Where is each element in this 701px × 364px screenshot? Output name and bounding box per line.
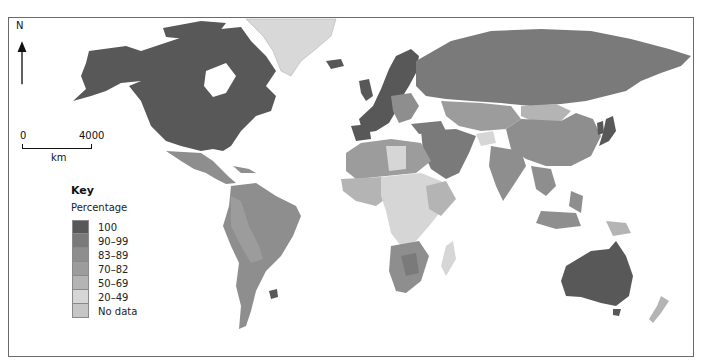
key-item: 50–69 [72, 276, 137, 290]
swatch-70-82 [72, 262, 89, 276]
scale-end-label: 4000 [79, 130, 104, 141]
region-russia [416, 29, 691, 106]
region-australia [561, 241, 633, 306]
scale-bar [22, 144, 92, 149]
swatch-83-89 [72, 248, 89, 262]
map-frame: N 0 4000 km Key Percentage 100 90–99 83–… [8, 17, 694, 357]
region-uruguay [269, 289, 278, 299]
key-item: 100 [72, 220, 137, 234]
region-india [489, 146, 526, 201]
scale-start-label: 0 [20, 130, 26, 141]
region-southeast-asia [531, 166, 556, 196]
key-title: Key [71, 184, 94, 197]
region-afghanistan [476, 131, 496, 146]
north-label: N [16, 20, 23, 31]
region-new-zealand [649, 296, 669, 323]
key-list: 100 90–99 83–89 70–82 50–69 20–49 No dat… [72, 220, 137, 318]
key-item: No data [72, 304, 137, 318]
region-north-america [129, 27, 276, 151]
north-arrow-icon [12, 36, 32, 86]
scale-unit-label: km [51, 152, 67, 163]
region-alaska [73, 46, 141, 101]
region-mexico [166, 151, 236, 184]
key-item: 90–99 [72, 234, 137, 248]
swatch-100 [72, 220, 89, 234]
swatch-20-49 [72, 290, 89, 304]
region-central-asia [441, 101, 521, 131]
key-subtitle: Percentage [71, 202, 127, 213]
region-middle-east [421, 129, 476, 179]
swatch-50-69 [72, 276, 89, 290]
swatch-90-99 [72, 234, 89, 248]
key-item: 83–89 [72, 248, 137, 262]
key-item: 70–82 [72, 262, 137, 276]
swatch-no-data [72, 304, 89, 318]
key-item: 20–49 [72, 290, 137, 304]
